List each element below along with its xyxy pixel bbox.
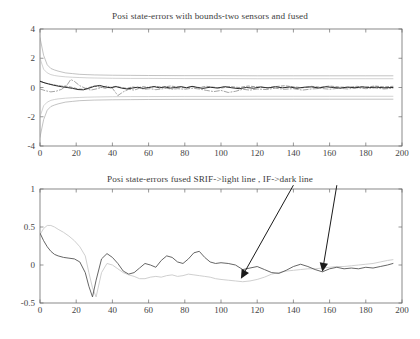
- y-tick-label: -0.5: [21, 298, 36, 308]
- x-tick-label: 160: [323, 148, 337, 158]
- x-tick-label: 60: [144, 305, 154, 315]
- series-group: [40, 38, 393, 137]
- plot-svg-top: 020406080100120140160180200-4-2024: [0, 0, 420, 170]
- y-tick-label: 0: [31, 260, 36, 270]
- x-tick-label: 20: [72, 305, 82, 315]
- x-tick-label: 160: [323, 305, 337, 315]
- series-line: [40, 233, 393, 297]
- plot-frame: [40, 189, 402, 303]
- series-group: [40, 225, 393, 296]
- series-line: [40, 225, 393, 296]
- x-tick-label: 0: [38, 148, 43, 158]
- x-tick-label: 180: [359, 305, 373, 315]
- arrow-head: [241, 269, 249, 279]
- x-tick-label: 140: [287, 148, 301, 158]
- y-tick-label: 0: [31, 83, 36, 93]
- x-tick-label: 40: [108, 148, 118, 158]
- y-tick-label: 1: [31, 184, 36, 194]
- x-tick-label: 180: [359, 148, 373, 158]
- arrow-shaft: [324, 185, 337, 263]
- chart-panel-top: Posi state-errors with bounds-two sensor…: [0, 0, 420, 170]
- x-tick-label: 200: [395, 148, 409, 158]
- x-tick-label: 120: [250, 148, 264, 158]
- x-tick-label: 120: [250, 305, 264, 315]
- plot-svg-bottom: 020406080100120140160180200-0.500.51: [0, 170, 420, 339]
- series-line: [40, 38, 393, 76]
- arrow-shaft: [245, 185, 293, 271]
- x-tick-label: 60: [144, 148, 154, 158]
- arrow-to-srif-light-line: [241, 185, 293, 278]
- x-tick-label: 20: [72, 148, 82, 158]
- x-tick-label: 40: [108, 305, 118, 315]
- x-tick-label: 80: [180, 305, 190, 315]
- x-tick-label: 100: [214, 148, 228, 158]
- x-tick-label: 200: [395, 305, 409, 315]
- y-tick-label: -2: [28, 112, 36, 122]
- chart-canvas-bottom: 020406080100120140160180200-0.500.51: [0, 170, 420, 339]
- chart-canvas-top: 020406080100120140160180200-4-2024: [0, 0, 420, 170]
- x-tick-label: 140: [287, 305, 301, 315]
- y-tick-label: 2: [31, 53, 36, 63]
- y-tick-label: 0.5: [24, 222, 36, 232]
- x-tick-label: 0: [38, 305, 43, 315]
- x-tick-label: 80: [180, 148, 190, 158]
- series-line: [40, 99, 393, 137]
- y-tick-label: 4: [31, 24, 36, 34]
- chart-panel-bottom: Posi state-errors fused SRIF->light line…: [0, 170, 420, 339]
- arrow-to-if-dark-line: [320, 185, 337, 272]
- x-tick-label: 100: [214, 305, 228, 315]
- y-tick-label: -4: [28, 141, 36, 151]
- figure-root: Posi state-errors with bounds-two sensor…: [0, 0, 420, 339]
